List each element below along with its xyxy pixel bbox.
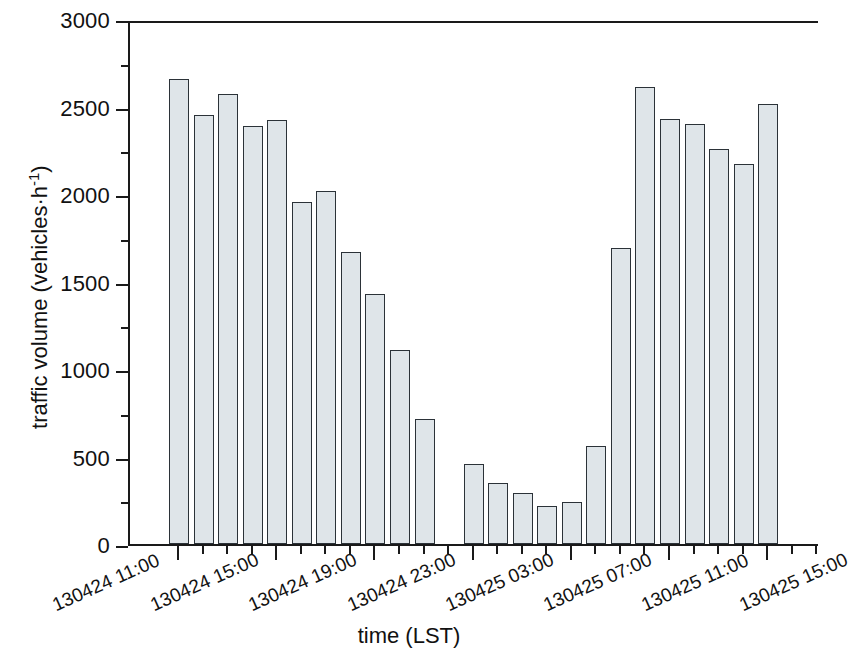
y-tick-major bbox=[116, 284, 128, 286]
y-tick-minor bbox=[121, 65, 128, 67]
bar bbox=[660, 119, 680, 544]
x-tick-minor bbox=[398, 546, 400, 554]
plot-area bbox=[128, 21, 818, 546]
y-tick-minor bbox=[121, 502, 128, 504]
x-tick-major bbox=[373, 546, 375, 560]
x-tick-minor bbox=[594, 546, 596, 554]
bar bbox=[194, 115, 214, 544]
y-tick-major bbox=[116, 109, 128, 111]
bar bbox=[488, 483, 508, 544]
x-tick-minor bbox=[226, 546, 228, 554]
x-tick-labels: 130424 11:00130424 15:00130424 19:001304… bbox=[0, 560, 818, 620]
x-tick-label: 130424 11:00 bbox=[49, 549, 163, 616]
y-tick-minor bbox=[121, 152, 128, 154]
y-tick-label: 3000 bbox=[60, 8, 110, 34]
y-tick-label: 1500 bbox=[60, 271, 110, 297]
x-tick-minor bbox=[815, 546, 817, 554]
bar bbox=[316, 191, 336, 544]
bars-layer bbox=[130, 23, 818, 544]
x-tick-major bbox=[472, 546, 474, 560]
y-tick-label: 1000 bbox=[60, 358, 110, 384]
y-axis-title: traffic volume (vehicles·h-1) bbox=[25, 62, 53, 532]
bar bbox=[734, 164, 754, 544]
bar bbox=[292, 202, 312, 544]
bar bbox=[709, 149, 729, 544]
x-tick-minor bbox=[619, 546, 621, 554]
y-tick-label: 2500 bbox=[60, 96, 110, 122]
bar bbox=[635, 87, 655, 544]
y-tick-major bbox=[116, 196, 128, 198]
x-tick-minor bbox=[300, 546, 302, 554]
x-tick-minor bbox=[324, 546, 326, 554]
x-tick-minor bbox=[717, 546, 719, 554]
x-tick-major bbox=[177, 546, 179, 560]
y-tick-major bbox=[116, 371, 128, 373]
y-tick-minor bbox=[121, 240, 128, 242]
bar bbox=[341, 252, 361, 544]
x-tick-major bbox=[570, 546, 572, 560]
bar bbox=[218, 94, 238, 544]
bar bbox=[415, 419, 435, 544]
bar bbox=[611, 248, 631, 544]
x-tick-major bbox=[766, 546, 768, 560]
x-tick-minor bbox=[791, 546, 793, 554]
x-tick-major bbox=[275, 546, 277, 560]
bar bbox=[169, 79, 189, 545]
x-tick-minor bbox=[521, 546, 523, 554]
bar bbox=[685, 124, 705, 544]
x-axis-title: time (LST) bbox=[0, 623, 818, 649]
y-tick-minor bbox=[121, 327, 128, 329]
x-tick-minor bbox=[202, 546, 204, 554]
y-tick-label: 2000 bbox=[60, 183, 110, 209]
bar bbox=[758, 104, 778, 544]
bar bbox=[513, 493, 533, 544]
bar bbox=[537, 506, 557, 544]
x-tick-minor bbox=[496, 546, 498, 554]
bar bbox=[464, 464, 484, 545]
x-tick-minor bbox=[693, 546, 695, 554]
bar bbox=[586, 446, 606, 544]
y-tick-major bbox=[116, 21, 128, 23]
y-tick-minor bbox=[121, 415, 128, 417]
bar bbox=[267, 120, 287, 544]
bar bbox=[562, 502, 582, 544]
y-tick-major bbox=[116, 459, 128, 461]
bar bbox=[390, 350, 410, 544]
x-tick-label: 130425 11:00 bbox=[638, 549, 752, 616]
x-tick-major bbox=[668, 546, 670, 560]
y-tick-label: 500 bbox=[73, 446, 110, 472]
x-tick-minor bbox=[423, 546, 425, 554]
bar bbox=[243, 126, 263, 544]
bar bbox=[365, 294, 385, 544]
